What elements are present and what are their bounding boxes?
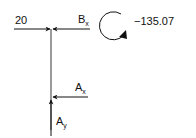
force-20-label: 20 [15,14,27,26]
force-ax-label: Ax [75,81,86,95]
force-ay-label: Ay [56,115,67,130]
free-body-diagram: 20 Bx −135.07 Ax Ay [0,0,196,138]
moment-label: −135.07 [134,15,174,27]
force-bx-label: Bx [78,13,89,27]
moment-arrow-icon [99,12,127,40]
